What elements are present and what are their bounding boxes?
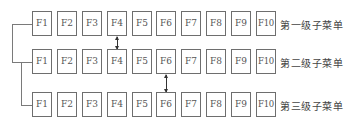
- key-f10: F10: [256, 92, 276, 117]
- key-f10: F10: [256, 49, 276, 74]
- menu-label-1: 第一级子菜单: [280, 17, 343, 32]
- key-f9: F9: [231, 49, 251, 74]
- key-f10: F10: [256, 11, 276, 36]
- key-f5: F5: [132, 11, 152, 36]
- key-f7: F7: [181, 11, 201, 36]
- key-f9: F9: [231, 11, 251, 36]
- key-f7: F7: [181, 49, 201, 74]
- key-f1: F1: [32, 92, 52, 117]
- key-f2: F2: [57, 49, 77, 74]
- key-f6: F6: [156, 92, 176, 117]
- key-f9: F9: [231, 92, 251, 117]
- connector-inner-v: [21, 62, 22, 106]
- key-f8: F8: [206, 11, 226, 36]
- key-f4: F4: [107, 49, 127, 74]
- double-arrow-icon: [117, 37, 118, 49]
- key-f2: F2: [57, 92, 77, 117]
- menu-label-2: 第二级子菜单: [280, 55, 343, 70]
- key-f8: F8: [206, 49, 226, 74]
- key-f1: F1: [32, 49, 52, 74]
- key-f3: F3: [82, 92, 102, 117]
- menu-label-3: 第三级子菜单: [280, 98, 343, 113]
- key-f2: F2: [57, 11, 77, 36]
- connector-row2-h: [12, 62, 32, 63]
- key-f3: F3: [82, 11, 102, 36]
- key-f1: F1: [32, 11, 52, 36]
- double-arrow-icon: [166, 75, 167, 92]
- key-f3: F3: [82, 49, 102, 74]
- key-f5: F5: [132, 49, 152, 74]
- key-f4: F4: [107, 11, 127, 36]
- key-f8: F8: [206, 92, 226, 117]
- key-f7: F7: [181, 92, 201, 117]
- key-f6: F6: [156, 11, 176, 36]
- key-f5: F5: [132, 92, 152, 117]
- key-f4: F4: [107, 92, 127, 117]
- key-f6: F6: [156, 49, 176, 74]
- connector-outer-v: [12, 24, 13, 63]
- connector-row1-h: [12, 24, 32, 25]
- connector-row3-h: [21, 105, 32, 106]
